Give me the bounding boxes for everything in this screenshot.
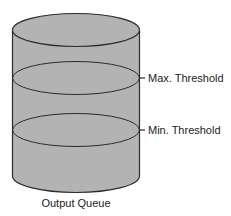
cylinder-top xyxy=(13,14,140,47)
min-threshold-label: Min. Threshold xyxy=(148,124,221,136)
output-queue-diagram: Max. Threshold Min. Threshold Output Que… xyxy=(0,0,231,216)
queue-title: Output Queue xyxy=(41,197,110,209)
cylinder-body xyxy=(13,30,140,192)
max-threshold-label: Max. Threshold xyxy=(148,72,224,84)
